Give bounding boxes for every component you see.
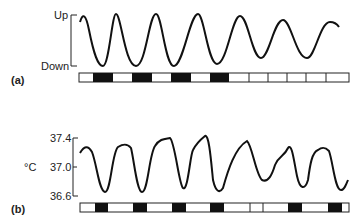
b-unit-label: °C [24, 161, 36, 173]
b-panel-label: (b) [11, 203, 25, 215]
a-up-label: Up [54, 9, 68, 21]
a-activity-curve [80, 14, 339, 66]
a-axis [71, 15, 77, 66]
a-panel-label: (a) [11, 74, 24, 86]
b-tick-37-4: 37.4 [50, 132, 71, 144]
b-tick-37-0: 37.0 [50, 161, 71, 173]
b-light-dark-bar [80, 203, 349, 212]
b-axis [73, 138, 78, 196]
a-down-label: Down [41, 60, 69, 72]
a-light-dark-bar [79, 73, 349, 82]
chart-canvas [0, 0, 354, 222]
b-temperature-curve [80, 136, 348, 192]
b-tick-36-6: 36.6 [50, 190, 71, 202]
